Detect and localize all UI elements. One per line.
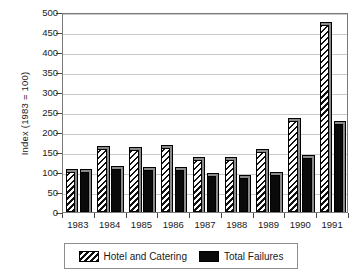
x-tick-label-1986: 1986 (156, 219, 190, 230)
gridline-250 (63, 114, 347, 115)
bar-face (256, 152, 266, 212)
y-tick-label-250: 250 (18, 108, 58, 117)
bar-shadow (89, 172, 92, 212)
bar-face (129, 150, 139, 212)
bar-1989-series-1 (270, 172, 283, 212)
bar-face (270, 175, 280, 212)
bar-shadow (343, 124, 346, 212)
y-tick-label-450: 450 (18, 28, 58, 37)
x-tick-label-1988: 1988 (220, 219, 254, 230)
x-tick-1985 (126, 213, 127, 218)
y-tick-label-300: 300 (18, 88, 58, 97)
solid-black-swatch-icon (199, 251, 219, 262)
bar-1986-series-0 (161, 145, 174, 212)
x-tick-label-1984: 1984 (93, 219, 127, 230)
bar-1987-series-1 (207, 173, 220, 212)
x-tick-1991 (316, 213, 317, 218)
bar-1990-series-1 (302, 155, 315, 212)
bar-face (111, 169, 121, 212)
bar-shadow (216, 176, 219, 212)
bar-face (66, 172, 76, 212)
y-tick-label-500: 500 (18, 8, 58, 17)
bar-1985-series-0 (129, 147, 142, 212)
legend-item-hotel-and-catering: Hotel and Catering (79, 251, 187, 262)
x-tick-1987 (189, 213, 190, 218)
gridline-200 (63, 134, 347, 135)
x-tick-1983 (62, 213, 63, 218)
x-tick-label-1983: 1983 (61, 219, 95, 230)
bar-shadow (184, 170, 187, 212)
gridline-450 (63, 34, 347, 35)
diagonal-hatch-swatch-icon (79, 251, 99, 262)
bar-1985-series-1 (143, 167, 156, 212)
bar-shadow (139, 150, 142, 212)
bar-1990-series-0 (288, 118, 301, 212)
gridline-300 (63, 94, 347, 95)
bar-shadow (266, 152, 269, 212)
y-tick-label-100: 100 (18, 168, 58, 177)
bar-1984-series-0 (97, 146, 110, 212)
gridline-350 (63, 74, 347, 75)
bar-face (239, 178, 249, 212)
x-tick-label-1989: 1989 (252, 219, 286, 230)
bar-face (97, 149, 107, 212)
bar-face (193, 160, 203, 212)
y-tick-label-0: 0 (18, 208, 58, 217)
bar-shadow (329, 25, 332, 212)
bar-1983-series-0 (66, 169, 79, 212)
y-tick-label-150: 150 (18, 148, 58, 157)
bar-shadow (75, 172, 78, 212)
bar-face (175, 170, 185, 212)
bar-chart: Index (1983 = 100) 050100150200250300350… (0, 0, 360, 278)
legend-item-total-failures: Total Failures (199, 251, 283, 262)
y-tick-label-50: 50 (18, 188, 58, 197)
y-tick-label-400: 400 (18, 48, 58, 57)
bar-1984-series-1 (111, 166, 124, 212)
bar-shadow (234, 160, 237, 212)
plot-area (62, 13, 348, 213)
bar-face (225, 160, 235, 212)
x-tick-1988 (221, 213, 222, 218)
bar-face (288, 121, 298, 212)
bar-shadow (202, 160, 205, 212)
y-tick-label-200: 200 (18, 128, 58, 137)
gridline-500 (63, 14, 347, 15)
bar-1988-series-1 (239, 175, 252, 212)
bar-shadow (170, 148, 173, 212)
bar-face (302, 158, 312, 212)
bar-shadow (280, 175, 283, 212)
x-tick-1984 (94, 213, 95, 218)
bar-face (207, 176, 217, 212)
y-tick-label-350: 350 (18, 68, 58, 77)
bar-face (334, 124, 344, 212)
bar-1988-series-0 (225, 157, 238, 212)
bar-1989-series-0 (256, 149, 269, 212)
x-tick-end (348, 213, 349, 218)
bar-face (161, 148, 171, 212)
bar-face (80, 172, 90, 212)
x-tick-1989 (253, 213, 254, 218)
x-tick-label-1990: 1990 (283, 219, 317, 230)
bar-shadow (153, 170, 156, 212)
bar-1986-series-1 (175, 167, 188, 212)
x-tick-1986 (157, 213, 158, 218)
x-tick-label-1991: 1991 (315, 219, 349, 230)
bar-shadow (312, 158, 315, 212)
bar-shadow (107, 149, 110, 212)
bar-shadow (298, 121, 301, 212)
chart-legend: Hotel and Catering Total Failures (64, 243, 298, 269)
x-tick-label-1987: 1987 (188, 219, 222, 230)
bar-1991-series-1 (334, 121, 347, 212)
x-tick-label-1985: 1985 (124, 219, 158, 230)
bar-1987-series-0 (193, 157, 206, 212)
legend-label: Hotel and Catering (104, 251, 187, 262)
bar-1983-series-1 (80, 169, 93, 212)
legend-label: Total Failures (224, 251, 283, 262)
bar-face (143, 170, 153, 212)
gridline-400 (63, 54, 347, 55)
bar-shadow (248, 178, 251, 212)
x-tick-1990 (284, 213, 285, 218)
bar-shadow (121, 169, 124, 212)
bar-1991-series-0 (320, 22, 333, 212)
bar-face (320, 25, 330, 212)
